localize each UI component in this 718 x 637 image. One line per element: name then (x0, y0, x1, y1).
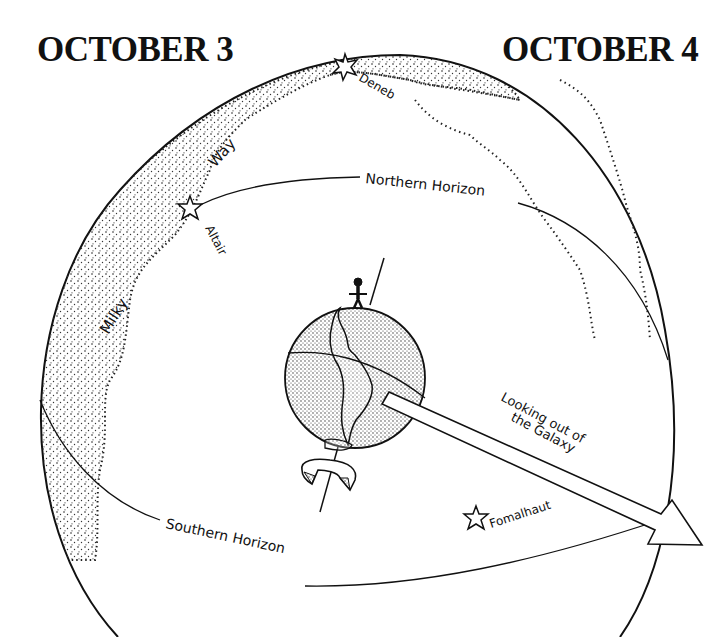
celestial-sphere-diagram: Northern Horizon Southern Horizon Milky … (0, 0, 718, 637)
observer-person-icon (349, 278, 367, 308)
northern-horizon-label: Northern Horizon (365, 170, 486, 198)
fomalhaut-label: Fomalhaut (488, 498, 553, 531)
earth-globe-icon (285, 308, 425, 450)
northern-horizon-line (200, 177, 668, 360)
milky-way-dotted-branches (415, 80, 650, 340)
star-fomalhaut-icon (464, 506, 488, 529)
altair-label: Altair (202, 223, 229, 258)
southern-horizon-label: Southern Horizon (164, 515, 286, 556)
rotation-arrow-icon (302, 459, 356, 490)
